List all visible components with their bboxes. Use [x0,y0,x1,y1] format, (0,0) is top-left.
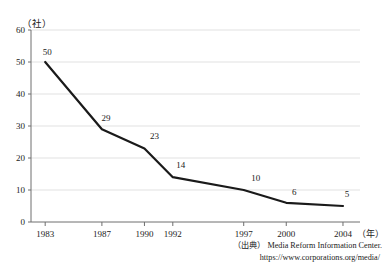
y-tick-label: 10 [16,185,26,195]
x-tick-label: 1983 [36,229,55,239]
data-point-labels: 502923141065 [43,47,350,199]
y-tick-label: 20 [16,153,26,163]
x-tick-label: 1992 [164,229,182,239]
source-url: https://www.corporations.org/media/ [233,252,382,264]
data-series-line [45,62,343,206]
data-point-label: 5 [345,189,350,199]
data-point-label: 14 [176,160,186,170]
x-axis-ticks: 1983198719901992199720002004 [36,222,352,239]
y-axis-ticks: 0102030405060 [16,25,31,227]
x-tick-label: 1990 [135,229,154,239]
data-point-label: 10 [251,173,261,183]
x-tick-label: 2004 [334,229,353,239]
x-tick-label: 1987 [93,229,112,239]
y-tick-label: 40 [16,89,26,99]
line-chart: 0102030405060 19831987199019921997200020… [0,0,388,272]
data-point-label: 23 [150,131,160,141]
source-line-primary: （出典） Media Reform Information Center. [233,240,382,252]
source-prefix: （出典） [233,241,265,250]
x-axis-unit-label: （年） [357,228,384,239]
x-tick-label: 2000 [277,229,296,239]
data-point-label: 6 [292,187,297,197]
y-tick-label: 0 [21,217,26,227]
y-tick-label: 60 [16,25,26,35]
data-point-label: 29 [101,113,111,123]
source-note: （出典） Media Reform Information Center. ht… [233,240,382,263]
y-tick-label: 50 [16,57,26,67]
data-point-label: 50 [43,47,53,57]
x-tick-label: 1997 [235,229,254,239]
chart-figure: （社） 0102030405060 1983198719901992199720… [0,0,388,272]
gridlines [31,30,360,190]
source-name: Media Reform Information Center. [267,241,382,250]
y-tick-label: 30 [16,121,26,131]
